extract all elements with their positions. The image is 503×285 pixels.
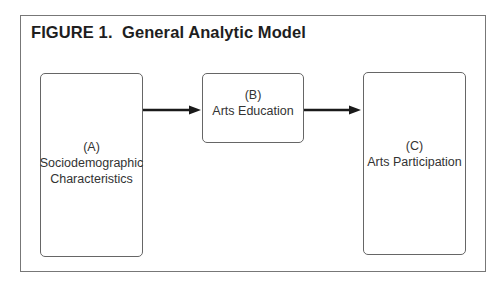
arrow-b-to-c-icon: [304, 106, 361, 115]
arrow-a-to-b-icon: [143, 106, 201, 115]
arrows-layer: [0, 0, 503, 285]
